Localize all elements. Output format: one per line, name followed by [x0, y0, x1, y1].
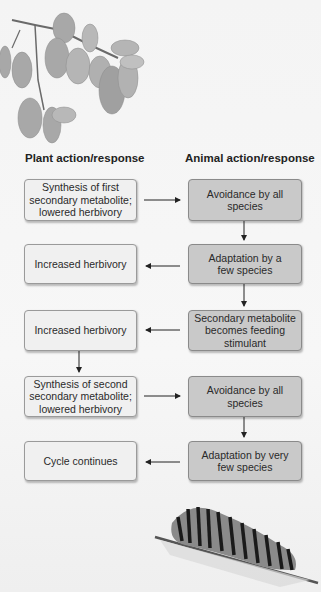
- caterpillar-illustration: [150, 495, 321, 592]
